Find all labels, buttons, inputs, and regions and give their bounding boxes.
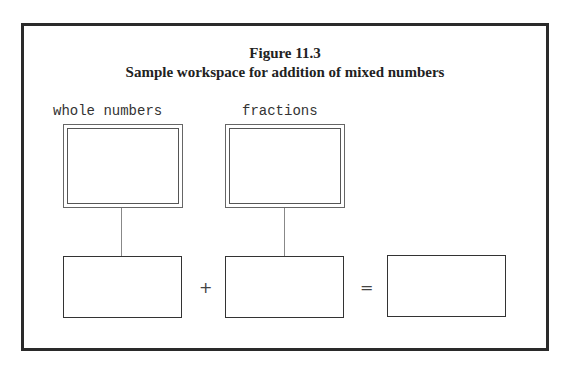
- plus-sign: +: [199, 280, 212, 296]
- equals-sign: =: [360, 280, 373, 296]
- whole-numbers-box: [63, 124, 183, 208]
- figure-title: Figure 11.3: [24, 45, 546, 62]
- figure-subtitle: Sample workspace for addition of mixed n…: [24, 64, 546, 81]
- fraction-sum-box: [225, 256, 344, 318]
- whole-numbers-label: whole numbers: [53, 103, 162, 119]
- figure-frame: Figure 11.3 Sample workspace for additio…: [21, 23, 549, 351]
- fractions-box-inner: [229, 128, 341, 204]
- result-box: [387, 255, 506, 317]
- fractions-box: [225, 124, 345, 208]
- whole-sum-box: [63, 256, 182, 318]
- fractions-connector-line: [284, 208, 285, 256]
- whole-connector-line: [121, 208, 122, 256]
- whole-numbers-box-inner: [67, 128, 179, 204]
- fractions-label: fractions: [242, 103, 318, 119]
